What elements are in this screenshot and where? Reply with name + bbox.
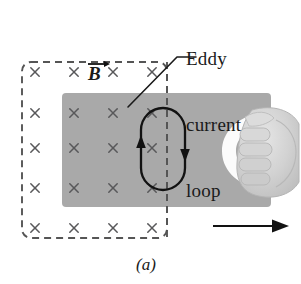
finger-middle [239, 143, 272, 156]
magnetic-field-label: B [88, 63, 101, 85]
finger-little [241, 173, 270, 185]
field-marker-into-page [31, 184, 39, 192]
panel-caption: (a) [136, 255, 156, 275]
annotation-line-3: loop [186, 180, 241, 202]
annotation-line-2: current [186, 114, 241, 136]
field-marker-into-page [31, 68, 39, 76]
field-marker-into-page [31, 144, 39, 152]
annotation-line-1: Eddy [186, 48, 241, 70]
finger-index [240, 128, 270, 141]
field-marker-into-page [109, 224, 117, 232]
figure-canvas [0, 0, 301, 284]
field-marker-into-page [31, 109, 39, 117]
field-marker-into-page [148, 224, 156, 232]
eddy-current-loop-annotation: Eddy current loop [186, 4, 241, 246]
eddy-current-figure: Eddy current loop B (a) [0, 0, 301, 284]
field-marker-into-page [148, 68, 156, 76]
field-marker-into-page [109, 68, 117, 76]
field-marker-into-page [70, 68, 78, 76]
field-marker-into-page [70, 224, 78, 232]
motion-arrow-head [272, 220, 289, 233]
field-marker-into-page [31, 224, 39, 232]
finger-ring [239, 158, 271, 171]
hand-graphic [237, 108, 299, 197]
